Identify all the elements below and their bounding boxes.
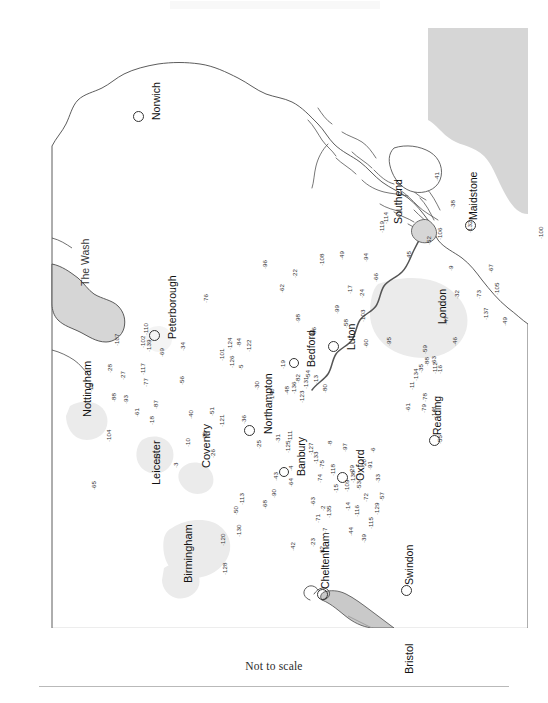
river-estuary xyxy=(411,219,436,242)
city-marker-banbury xyxy=(279,467,289,477)
city-marker-cheltenham xyxy=(317,589,328,600)
site-location-map-figure: ·107·139·110·102·34·69·28·117·27·12·77·5… xyxy=(0,0,548,703)
site-point-label: ·100 xyxy=(538,227,544,239)
city-marker-maidstone xyxy=(465,220,476,231)
island-outline xyxy=(389,146,441,193)
city-marker-norwich xyxy=(133,111,144,122)
caption-rule xyxy=(39,686,509,687)
city-marker-swindon xyxy=(401,585,412,596)
map-canvas xyxy=(22,28,528,628)
city-marker-bedford xyxy=(289,358,299,368)
city-marker-peterborough xyxy=(149,330,160,341)
city-marker-luton xyxy=(328,341,339,352)
city-marker-reading xyxy=(429,435,440,446)
figure-caption: Not to scale xyxy=(0,660,548,672)
city-marker-oxford xyxy=(337,472,348,483)
city-marker-northampton xyxy=(244,425,255,436)
top-edge-artifact xyxy=(170,1,380,9)
